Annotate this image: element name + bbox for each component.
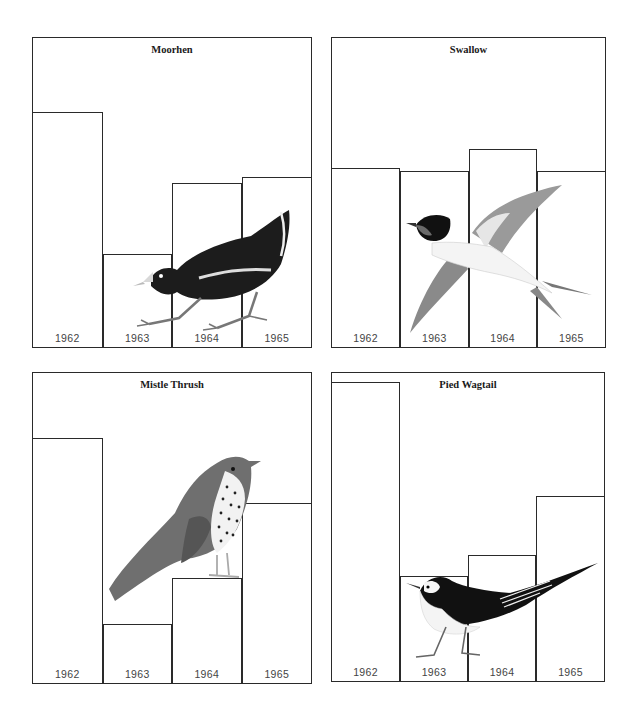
bar-1963: 1963 bbox=[400, 171, 468, 347]
year-label: 1962 bbox=[33, 668, 102, 680]
year-label: 1965 bbox=[537, 666, 604, 678]
chart-moorhen: Moorhen 1962196319641965 bbox=[32, 37, 312, 348]
year-label: 1962 bbox=[332, 332, 399, 344]
bar-1965: 1965 bbox=[242, 177, 312, 347]
chart-title: Swallow bbox=[332, 44, 605, 55]
bar-1963: 1963 bbox=[103, 254, 173, 347]
chart-mistle-thrush: Mistle Thrush 1962196319641965 bbox=[32, 372, 312, 684]
bar-1965: 1965 bbox=[537, 171, 605, 347]
chart-title: Pied Wagtail bbox=[332, 379, 604, 390]
year-label: 1963 bbox=[401, 666, 467, 678]
bar-1965: 1965 bbox=[536, 496, 604, 681]
bar-1964: 1964 bbox=[468, 555, 536, 681]
chart-swallow: Swallow 1962196319641965 bbox=[331, 37, 606, 348]
bar-1964: 1964 bbox=[172, 183, 242, 347]
bar-1965: 1965 bbox=[242, 503, 312, 683]
bar-1962: 1962 bbox=[33, 438, 103, 683]
year-label: 1964 bbox=[173, 668, 241, 680]
year-label: 1965 bbox=[538, 332, 605, 344]
year-label: 1962 bbox=[33, 332, 102, 344]
bar-1962: 1962 bbox=[332, 168, 400, 347]
chart-pied-wagtail: Pied Wagtail 1962196319641965 bbox=[331, 372, 605, 682]
year-label: 1964 bbox=[173, 332, 241, 344]
bar-1962: 1962 bbox=[332, 382, 400, 681]
year-label: 1964 bbox=[470, 332, 536, 344]
year-label: 1965 bbox=[243, 332, 312, 344]
chart-title: Mistle Thrush bbox=[33, 379, 311, 390]
bar-1963: 1963 bbox=[400, 576, 468, 681]
year-label: 1963 bbox=[401, 332, 467, 344]
bar-1964: 1964 bbox=[469, 149, 537, 347]
year-label: 1963 bbox=[104, 668, 172, 680]
year-label: 1965 bbox=[243, 668, 312, 680]
chart-title: Moorhen bbox=[33, 44, 311, 55]
year-label: 1964 bbox=[469, 666, 535, 678]
bar-1964: 1964 bbox=[172, 578, 242, 683]
year-label: 1962 bbox=[332, 666, 399, 678]
bar-1962: 1962 bbox=[33, 112, 103, 347]
bar-1963: 1963 bbox=[103, 624, 173, 683]
year-label: 1963 bbox=[104, 332, 172, 344]
